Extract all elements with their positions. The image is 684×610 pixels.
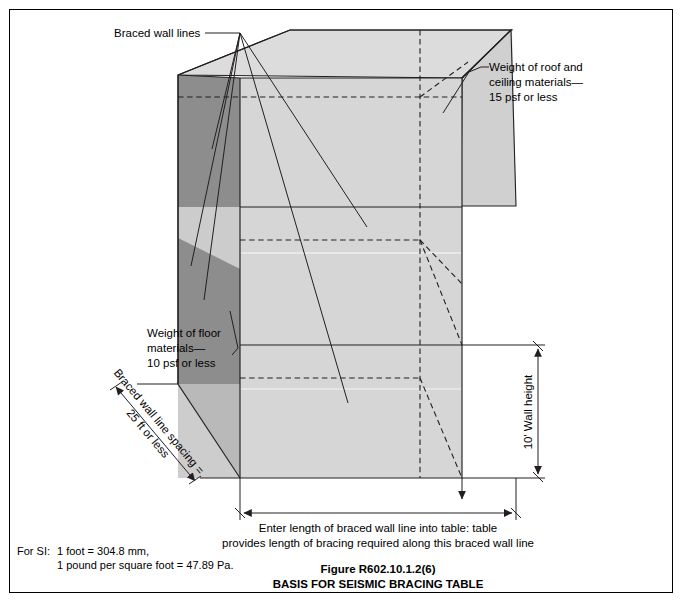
- figure-number: Figure R602.10.1.2(6): [320, 563, 435, 575]
- building-isometric-solid: [178, 30, 516, 478]
- bottom-dim-label-line2: provides length of bracing required alon…: [222, 537, 534, 549]
- seismic-bracing-isometric-drawing: Braced wall lines Weight of roof and cei…: [0, 0, 684, 610]
- roof-ceiling-label-line3: 15 psf or less: [489, 91, 558, 103]
- figure-title: BASIS FOR SEISMIC BRACING TABLE: [273, 578, 484, 590]
- front-wall-face: [240, 78, 462, 478]
- roof-ceiling-label-line2: ceiling materials—: [489, 76, 583, 88]
- bottom-dim-label-line1: Enter length of braced wall line into ta…: [259, 522, 497, 534]
- floor-label-line1: Weight of floor: [147, 327, 221, 339]
- bottom-length-dimension: [235, 478, 521, 520]
- floor-label-line2: materials—: [147, 342, 206, 354]
- left-side-dark-upper-repaint: [178, 75, 240, 207]
- si-note-line1: 1 foot = 304.8 mm,: [57, 545, 149, 557]
- braced-wall-lines-label: Braced wall lines: [114, 27, 201, 39]
- floor-label-line3: 10 psf or less: [147, 357, 216, 369]
- si-note-line2: 1 pound per square foot = 47.89 Pa.: [57, 559, 233, 571]
- si-note-label: For SI:: [17, 545, 50, 557]
- figure-root: Braced wall lines Weight of roof and cei…: [0, 0, 684, 610]
- roof-back-slope: [178, 30, 512, 78]
- roof-ceiling-label-line1: Weight of roof and: [489, 61, 583, 73]
- wall-height-label: 10' Wall height: [522, 374, 534, 449]
